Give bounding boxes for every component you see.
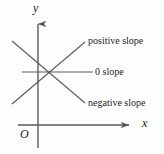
origin-label: O	[20, 128, 29, 140]
x-axis-label: x	[142, 117, 147, 129]
zero-slope-label: 0 slope	[95, 67, 124, 77]
positive-slope-line	[12, 42, 85, 104]
positive-slope-label: positive slope	[88, 36, 143, 46]
negative-slope-label: negative slope	[88, 98, 145, 108]
y-axis-label: y	[33, 2, 38, 14]
slope-diagram: positive slope 0 slope negative slope y …	[0, 0, 164, 154]
